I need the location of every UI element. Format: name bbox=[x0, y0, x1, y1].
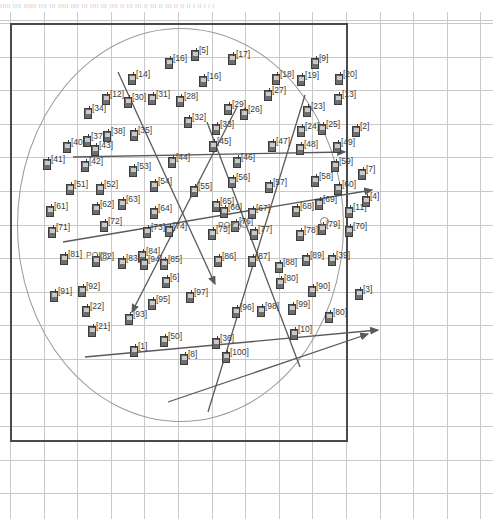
network-node[interactable] bbox=[275, 260, 283, 273]
network-node[interactable] bbox=[328, 253, 336, 266]
network-node[interactable] bbox=[60, 252, 68, 265]
network-node[interactable] bbox=[308, 284, 316, 297]
network-node[interactable] bbox=[334, 92, 342, 105]
network-node[interactable] bbox=[265, 180, 273, 193]
network-node[interactable] bbox=[302, 253, 310, 266]
network-node[interactable] bbox=[220, 205, 228, 218]
network-node[interactable] bbox=[81, 159, 89, 172]
network-node[interactable] bbox=[228, 175, 236, 188]
network-node[interactable] bbox=[362, 194, 370, 207]
simulation-window: ııııı ıııı ıııııı ıııı ııı ııııı ıııı ıı… bbox=[0, 0, 493, 519]
network-node[interactable] bbox=[130, 344, 138, 357]
network-node[interactable] bbox=[214, 254, 222, 267]
network-node[interactable] bbox=[318, 122, 326, 135]
network-node[interactable] bbox=[345, 224, 353, 237]
network-node[interactable] bbox=[212, 336, 220, 349]
poi-marker[interactable] bbox=[320, 217, 329, 226]
network-node[interactable] bbox=[268, 139, 276, 152]
network-node[interactable] bbox=[208, 227, 216, 240]
network-node[interactable] bbox=[355, 287, 363, 300]
network-node[interactable] bbox=[148, 92, 156, 105]
network-node[interactable] bbox=[290, 327, 298, 340]
poi-marker[interactable] bbox=[240, 219, 249, 228]
network-node[interactable] bbox=[48, 225, 56, 238]
network-node[interactable] bbox=[186, 290, 194, 303]
network-node[interactable] bbox=[228, 52, 236, 65]
network-node[interactable] bbox=[311, 56, 319, 69]
node-antenna-icon bbox=[253, 206, 254, 210]
network-node[interactable] bbox=[199, 74, 207, 87]
node-screen-icon bbox=[330, 257, 335, 261]
network-node[interactable] bbox=[125, 312, 133, 325]
network-node[interactable] bbox=[50, 289, 58, 302]
network-node[interactable] bbox=[96, 182, 104, 195]
network-node[interactable] bbox=[165, 56, 173, 69]
network-node[interactable] bbox=[335, 72, 343, 85]
network-node[interactable] bbox=[191, 48, 199, 61]
network-node[interactable] bbox=[150, 179, 158, 192]
network-node[interactable] bbox=[88, 324, 96, 337]
network-node[interactable] bbox=[168, 155, 176, 168]
network-node[interactable] bbox=[292, 204, 300, 217]
network-node[interactable] bbox=[272, 72, 280, 85]
network-node[interactable] bbox=[325, 310, 333, 323]
network-node[interactable] bbox=[162, 275, 170, 288]
network-node[interactable] bbox=[129, 164, 137, 177]
network-node[interactable] bbox=[46, 204, 54, 217]
network-node[interactable] bbox=[233, 155, 241, 168]
network-node[interactable] bbox=[303, 104, 311, 117]
network-node[interactable] bbox=[297, 124, 305, 137]
network-node[interactable] bbox=[315, 197, 323, 210]
network-node[interactable] bbox=[128, 72, 136, 85]
poi-marker[interactable] bbox=[100, 252, 109, 261]
network-node[interactable] bbox=[176, 94, 184, 107]
network-node[interactable] bbox=[100, 219, 108, 232]
network-node[interactable] bbox=[165, 224, 173, 237]
network-node[interactable] bbox=[250, 227, 258, 240]
network-node[interactable] bbox=[148, 297, 156, 310]
network-node[interactable] bbox=[190, 184, 198, 197]
network-node[interactable] bbox=[180, 352, 188, 365]
network-node[interactable] bbox=[140, 257, 148, 270]
network-node[interactable] bbox=[66, 182, 74, 195]
network-node[interactable] bbox=[43, 157, 51, 170]
network-node[interactable] bbox=[184, 115, 192, 128]
network-node[interactable] bbox=[352, 124, 360, 137]
network-node[interactable] bbox=[240, 107, 248, 120]
network-node[interactable] bbox=[91, 143, 99, 156]
node-screen-icon bbox=[126, 99, 131, 103]
network-node[interactable] bbox=[297, 73, 305, 86]
network-node[interactable] bbox=[150, 206, 158, 219]
network-node[interactable] bbox=[212, 199, 220, 212]
network-node[interactable] bbox=[276, 276, 284, 289]
network-node[interactable] bbox=[82, 304, 90, 317]
network-node[interactable] bbox=[124, 95, 132, 108]
network-node[interactable] bbox=[232, 305, 240, 318]
network-node[interactable] bbox=[160, 334, 168, 347]
node-label: [58] bbox=[319, 172, 333, 181]
network-node[interactable] bbox=[248, 254, 256, 267]
network-node[interactable] bbox=[160, 257, 168, 270]
network-node[interactable] bbox=[264, 88, 272, 101]
network-node[interactable] bbox=[130, 128, 138, 141]
network-node[interactable] bbox=[224, 102, 232, 115]
network-node[interactable] bbox=[358, 167, 366, 180]
network-node[interactable] bbox=[345, 205, 353, 218]
network-node[interactable] bbox=[63, 140, 71, 153]
network-node[interactable] bbox=[296, 142, 304, 155]
network-node[interactable] bbox=[333, 140, 341, 153]
topology-canvas[interactable]: [5][17][16][9][14][18][19][20][16][12][3… bbox=[0, 12, 493, 519]
network-node[interactable] bbox=[212, 122, 220, 135]
network-node[interactable] bbox=[92, 202, 100, 215]
network-node[interactable] bbox=[118, 256, 126, 269]
network-node[interactable] bbox=[118, 197, 126, 210]
network-node[interactable] bbox=[209, 139, 217, 152]
network-node[interactable] bbox=[84, 106, 92, 119]
network-node[interactable] bbox=[78, 284, 86, 297]
network-node[interactable] bbox=[257, 304, 265, 317]
network-node[interactable] bbox=[143, 225, 151, 238]
network-node[interactable] bbox=[311, 174, 319, 187]
network-node[interactable] bbox=[296, 228, 304, 241]
network-node[interactable] bbox=[288, 302, 296, 315]
network-node[interactable] bbox=[222, 350, 230, 363]
